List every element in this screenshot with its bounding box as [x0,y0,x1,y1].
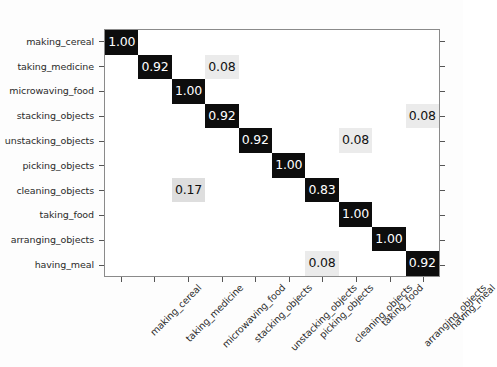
matrix-cell [406,79,439,104]
matrix-cell: 0.92 [205,104,238,129]
matrix-cell: 1.00 [172,79,205,104]
matrix-cell [105,79,138,104]
matrix-cell [172,251,205,276]
y-axis-tick-right [440,103,445,128]
matrix-cell [406,55,439,80]
matrix-cell [105,153,138,178]
y-axis-tick-right [440,128,445,153]
matrix-cell-value: 1.00 [108,36,135,49]
y-axis-ticks-right [440,29,445,277]
matrix-cell [272,227,305,252]
matrix-cell: 1.00 [372,227,405,252]
matrix-cell-value: 1.00 [175,85,202,98]
y-axis-tick-right [440,203,445,228]
matrix-cell [339,55,372,80]
y-axis-tick-right [440,79,445,104]
matrix-cell [305,153,338,178]
y-axis-label: cleaning_objects [0,178,100,203]
matrix-cell [372,79,405,104]
matrix-cell [138,128,171,153]
heatmap-plot-area: 1.000.920.081.000.920.080.920.081.000.17… [104,29,440,277]
matrix-cell: 0.92 [239,128,272,153]
y-axis-label: microwaving_food [0,79,100,104]
matrix-cell [406,153,439,178]
y-axis-tick-right [440,54,445,79]
matrix-cell [339,153,372,178]
matrix-cell [205,79,238,104]
matrix-cell [372,30,405,55]
matrix-cell: 0.83 [305,178,338,203]
matrix-cell [406,202,439,227]
matrix-cell [138,153,171,178]
matrix-cell [105,227,138,252]
matrix-cell [372,202,405,227]
matrix-cell [372,251,405,276]
matrix-cell [339,178,372,203]
matrix-cell-value: 0.83 [309,184,336,197]
matrix-cell-value: 0.08 [342,134,369,147]
matrix-cell-value: 0.08 [409,110,436,123]
matrix-cell [339,251,372,276]
matrix-cell [105,55,138,80]
matrix-cell [172,30,205,55]
matrix-cell [372,55,405,80]
matrix-cell [172,202,205,227]
matrix-cell: 0.08 [205,55,238,80]
matrix-cell [406,30,439,55]
matrix-cell [406,128,439,153]
matrix-cell: 1.00 [272,153,305,178]
matrix-cell [239,79,272,104]
matrix-cell [406,178,439,203]
matrix-cell: 1.00 [339,202,372,227]
matrix-cell [205,227,238,252]
matrix-cell [305,104,338,129]
y-axis-label: unstacking_objects [0,128,100,153]
matrix-cell [272,251,305,276]
matrix-cell [205,178,238,203]
matrix-cell-value: 0.92 [409,257,436,270]
matrix-cell [239,178,272,203]
matrix-cell-value: 0.92 [142,61,169,74]
matrix-cell [305,227,338,252]
matrix-cell [239,104,272,129]
matrix-cell-value: 0.92 [208,110,235,123]
matrix-cell: 0.92 [138,55,171,80]
matrix-cell [305,128,338,153]
x-axis-labels: making_cerealtaking_medicinemicrowaving_… [104,282,440,367]
matrix-cell [272,128,305,153]
matrix-cell-value: 1.00 [342,208,369,221]
matrix-cell [339,30,372,55]
matrix-cell-value: 0.92 [242,134,269,147]
matrix-cell [272,104,305,129]
matrix-cell [105,178,138,203]
matrix-cell [406,227,439,252]
matrix-cell [105,202,138,227]
matrix-cell-value: 0.08 [208,61,235,74]
matrix-cell [239,227,272,252]
matrix-cell [339,104,372,129]
matrix-cell: 0.17 [172,178,205,203]
matrix-cell [138,227,171,252]
matrix-cell-value: 1.00 [275,159,302,172]
matrix-cell [272,79,305,104]
matrix-cell: 0.08 [305,251,338,276]
y-axis-label: taking_food [0,203,100,228]
matrix-cell-value: 0.08 [309,257,336,270]
matrix-cell-value: 0.17 [175,184,202,197]
y-axis-tick-right [440,153,445,178]
matrix-cell [272,178,305,203]
matrix-cell [172,227,205,252]
y-axis-tick-right [440,29,445,54]
y-axis-label: picking_objects [0,153,100,178]
matrix-cell [272,202,305,227]
matrix-cell [239,30,272,55]
matrix-cell [272,30,305,55]
matrix-cell [172,104,205,129]
matrix-cell [205,153,238,178]
matrix-cell [372,178,405,203]
matrix-cell [172,153,205,178]
y-axis-label: arranging_objects [0,227,100,252]
matrix-cell [138,30,171,55]
y-axis-labels: making_cerealtaking_medicinemicrowaving_… [0,29,100,277]
matrix-cell [138,202,171,227]
